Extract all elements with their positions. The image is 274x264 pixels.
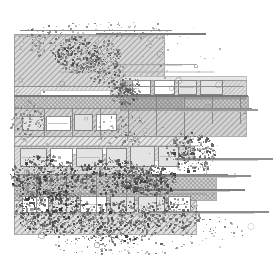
room-i: [130, 146, 154, 166]
block-white-gap-a: [40, 90, 110, 95]
architectural-drawing: [0, 0, 274, 264]
drawing-canvas: [0, 0, 274, 264]
block-right-cornice: [122, 76, 246, 80]
room-l: [154, 80, 174, 94]
room-c: [74, 114, 92, 130]
